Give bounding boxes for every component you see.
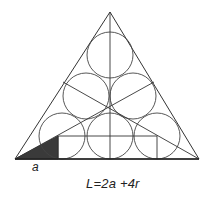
outer-triangle [15,12,199,159]
median-right [63,82,199,159]
circle-middle-left [63,73,109,119]
segment-a-label: a [32,160,39,174]
median-left [15,82,154,159]
center-rectangle [58,136,157,159]
formula-caption: L=2a +4r [86,176,140,191]
